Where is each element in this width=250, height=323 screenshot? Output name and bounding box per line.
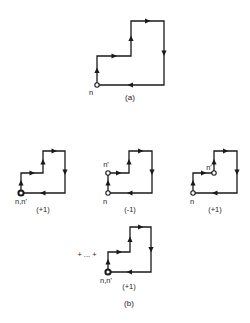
site-node-marker [105, 269, 110, 274]
figure-b-panel-3: nn'(+1) [190, 148, 240, 214]
direction-arrow-icon [138, 148, 144, 153]
direction-arrow-icon [126, 159, 131, 165]
figure-b-panel-2-closed-path [108, 151, 152, 193]
site-node-label: n' [206, 163, 212, 172]
direction-arrow-icon [117, 249, 123, 254]
site-node-label: n [103, 197, 107, 206]
direction-arrow-icon [190, 180, 195, 186]
figure-a-caption: (a) [125, 93, 135, 102]
site-node-marker [212, 171, 216, 175]
site-node-marker [106, 191, 110, 195]
figure-b-panel-1: n,n'(+1) [15, 148, 68, 214]
figure-b-panel-4: n,n'(+1) [100, 224, 154, 291]
term-weight: (+1) [208, 205, 222, 214]
site-node-label: n [89, 88, 93, 97]
direction-arrow-icon [128, 36, 133, 42]
site-node-marker [106, 171, 110, 175]
direction-arrow-icon [211, 159, 216, 165]
direction-arrow-icon [127, 237, 132, 243]
direction-arrow-icon [105, 180, 110, 186]
direction-arrow-icon [112, 53, 118, 58]
direction-arrow-icon [234, 170, 239, 176]
direction-arrow-icon [127, 269, 133, 274]
site-node-marker [191, 191, 195, 195]
direction-arrow-icon [138, 224, 144, 229]
site-node-label: n [190, 197, 194, 206]
direction-arrow-icon [40, 159, 45, 165]
direction-arrow-icon [128, 82, 134, 87]
figure-b-caption: (b) [124, 299, 134, 308]
term-weight: (-1) [124, 205, 136, 214]
direction-arrow-icon [105, 259, 110, 265]
direction-arrow-icon [62, 170, 67, 176]
direction-arrow-icon [161, 51, 166, 57]
figure-a: n [89, 18, 167, 97]
site-node-marker [18, 190, 23, 195]
term-weight: (+1) [36, 205, 50, 214]
loop-diagram: n (a) n,n'(+1)nn'(-1)nn'(+1)n,n'(+1) + .… [0, 0, 250, 323]
site-node-label: n,n' [100, 276, 112, 285]
direction-arrow-icon [148, 247, 153, 253]
figure-b-panel-4-closed-path [108, 227, 151, 272]
direction-arrow-icon [145, 18, 151, 23]
site-node-label: n,n' [15, 197, 27, 206]
direction-arrow-icon [127, 190, 133, 195]
direction-arrow-icon [94, 68, 99, 74]
figure-b-panel-1-closed-path [21, 151, 65, 193]
direction-arrow-icon [149, 170, 154, 176]
direction-arrow-icon [212, 190, 218, 195]
site-node-marker [95, 83, 99, 87]
direction-arrow-icon [18, 180, 23, 186]
direction-arrow-icon [40, 190, 46, 195]
direction-arrow-icon [223, 148, 229, 153]
figure-a-closed-path [97, 21, 164, 85]
site-node-label: n' [103, 160, 109, 169]
figure-b: n,n'(+1)nn'(-1)nn'(+1)n,n'(+1) [15, 148, 240, 291]
direction-arrow-icon [116, 170, 122, 175]
direction-arrow-icon [52, 148, 58, 153]
figure-b-panel-2: nn'(-1) [103, 148, 155, 214]
term-weight: (+1) [122, 282, 136, 291]
sum-ellipsis: + ... + [77, 250, 97, 259]
direction-arrow-icon [30, 170, 36, 175]
